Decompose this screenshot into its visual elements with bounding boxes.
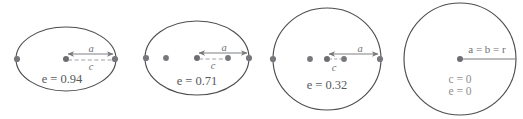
label-eccentricity: e = 0.32 bbox=[307, 78, 348, 92]
focus-dot-left bbox=[307, 56, 313, 62]
center-dot bbox=[194, 55, 200, 61]
label-focal-zero: c = 0 bbox=[448, 73, 471, 85]
eccentricity-diagram-svg: a c e = 0.94 a c e = 0.71 bbox=[0, 0, 523, 119]
vertex-dot-right bbox=[377, 56, 383, 62]
vertex-dot-left bbox=[14, 56, 20, 62]
label-semi-major-a: a bbox=[221, 42, 226, 53]
label-focal-c: c bbox=[211, 60, 216, 71]
vertex-dot-right bbox=[112, 56, 118, 62]
label-semi-major-a: a bbox=[88, 43, 93, 54]
label-focal-c: c bbox=[89, 61, 94, 72]
vertex-dot-right bbox=[246, 55, 252, 61]
label-eccentricity: e = 0.94 bbox=[42, 72, 83, 86]
focus-dot-left bbox=[163, 55, 169, 61]
focus-dot-center bbox=[63, 56, 69, 62]
label-radius-equation: a = b = r bbox=[468, 43, 506, 55]
focus-dot-right bbox=[225, 55, 231, 61]
label-semi-major-a: a bbox=[357, 43, 362, 54]
vertex-dot-left bbox=[143, 55, 149, 61]
label-eccentricity: e = 0.71 bbox=[177, 74, 218, 88]
label-eccentricity-zero: e = 0 bbox=[448, 85, 471, 97]
label-focal-c: c bbox=[332, 62, 337, 73]
vertex-dot-left bbox=[270, 56, 276, 62]
figure-background bbox=[0, 0, 523, 119]
eccentricity-figure: a c e = 0.94 a c e = 0.71 bbox=[0, 0, 523, 119]
